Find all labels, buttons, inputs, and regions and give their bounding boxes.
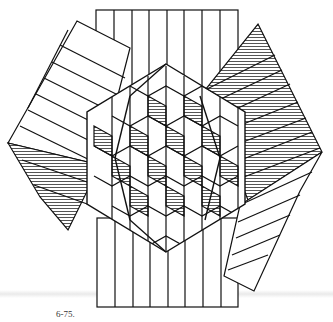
woven-hexagon-figure [0, 0, 333, 322]
figure-caption: 6-75. [56, 309, 75, 319]
